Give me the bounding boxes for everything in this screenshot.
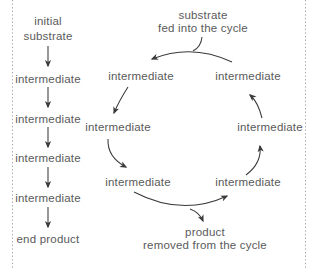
initial-substrate-label: initial substrate — [23, 14, 72, 44]
linear-intermediate-2: intermediate — [15, 113, 81, 126]
cycle-input-label: substrate fed into the cycle — [158, 9, 248, 35]
cycle-output-line2: removed from the cycle — [143, 239, 267, 252]
cycle-right-upper-arrow — [250, 95, 262, 118]
cycle-node-top-left: intermediate — [108, 70, 174, 83]
cycle-right-lower-arrow — [246, 146, 260, 175]
linear-intermediate-3: intermediate — [15, 152, 81, 165]
cycle-top-arc-arrow — [152, 52, 232, 62]
linear-intermediate-4: intermediate — [15, 192, 81, 205]
cycle-node-right: intermediate — [237, 121, 303, 134]
cycle-left-lower-arrow — [108, 139, 126, 167]
end-product-label: end product — [17, 233, 80, 246]
cycle-node-bottom-left: intermediate — [105, 176, 171, 189]
initial-substrate-line1: initial — [23, 14, 72, 29]
pathway-diagram: initial substrate intermediate intermedi… — [0, 0, 315, 268]
substrate-entry-curve — [193, 37, 202, 51]
linear-intermediate-1: intermediate — [15, 73, 81, 86]
cycle-node-top-right: intermediate — [215, 70, 281, 83]
cycle-output-label: product removed from the cycle — [143, 226, 267, 252]
product-exit-arrow — [190, 209, 203, 221]
cycle-bottom-arc-arrow — [134, 192, 227, 206]
cycle-input-line2: fed into the cycle — [158, 22, 248, 35]
cycle-output-line1: product — [143, 226, 267, 239]
cycle-node-left: intermediate — [85, 121, 151, 134]
cycle-node-bottom-right: intermediate — [215, 176, 281, 189]
cycle-input-line1: substrate — [158, 9, 248, 22]
initial-substrate-line2: substrate — [23, 29, 72, 44]
cycle-left-upper-arrow — [114, 87, 128, 113]
